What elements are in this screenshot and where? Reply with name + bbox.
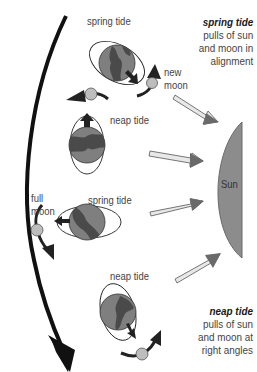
tide-label-spring-1: spring tide (87, 15, 131, 28)
new-moon-icon (147, 78, 158, 89)
legend-neap-title: neap tide (198, 305, 253, 318)
legend-spring-tide: spring tide pulls of sun and moon in ali… (199, 16, 253, 68)
moon-label-line: moon (31, 205, 55, 218)
moon-label-new: new moon (164, 66, 188, 92)
sun-icon (218, 122, 242, 258)
legend-neap-line: right angles (198, 344, 253, 357)
sun-label: Sun (221, 178, 238, 190)
legend-spring-line: pulls of sun (199, 29, 253, 42)
earth-spring-tide-new-moon (82, 32, 152, 93)
legend-spring-line: alignment (199, 55, 253, 68)
moon-label-line: moon (164, 79, 188, 92)
moon-label-full: full moon (31, 192, 55, 218)
earth-neap-tide-2 (94, 280, 142, 345)
tides-diagram: spring tide neap tide spring tide neap t… (0, 0, 257, 372)
full-moon-icon (31, 224, 43, 236)
legend-neap-line: pulls of sun (198, 318, 253, 331)
moon-label-line: full (31, 192, 55, 205)
tide-label-neap-2: neap tide (110, 270, 149, 283)
new-moon-orbit-arrow-icon (137, 64, 161, 96)
tide-label-neap-1: neap tide (110, 114, 149, 127)
moon-label-line: new (164, 66, 188, 79)
moon-icon (85, 88, 97, 100)
tide-label-spring-2: spring tide (88, 194, 132, 207)
legend-spring-title: spring tide (199, 16, 253, 29)
earth-neap-tide-1 (66, 88, 108, 174)
legend-neap-line: and moon at (198, 331, 253, 344)
legend-neap-tide: neap tide pulls of sun and moon at right… (198, 305, 253, 357)
moon-icon (136, 348, 148, 360)
moon-orbit-arrow-bottom-icon (121, 330, 161, 360)
legend-spring-line: and moon in (199, 42, 253, 55)
earth-spring-tide-full-moon (54, 204, 121, 242)
